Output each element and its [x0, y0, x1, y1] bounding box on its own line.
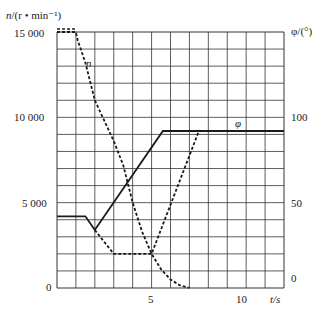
n-secondary-line — [95, 131, 199, 254]
chart-plot — [0, 0, 323, 316]
n-series-line — [57, 32, 189, 288]
